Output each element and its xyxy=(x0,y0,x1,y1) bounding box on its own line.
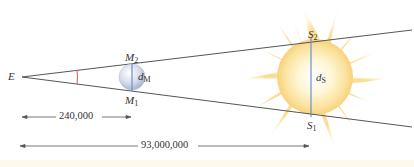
sun-top-label: S2 xyxy=(308,29,318,42)
moon-bottom-label-sub: 1 xyxy=(134,99,138,108)
diagram-canvas xyxy=(0,0,414,167)
sun-diameter-label-sub: S xyxy=(322,76,326,85)
moon-diameter-label-sub: M xyxy=(144,75,151,84)
sun-diameter-label: dS xyxy=(316,72,326,85)
sun-bottom-label-sub: 1 xyxy=(313,124,317,133)
moon-top-label-base: M xyxy=(125,51,134,63)
moon-diameter-label: dM xyxy=(138,71,151,84)
eclipse-geometry-diagram: E M2 M1 dM S2 S1 dS 240,000 93,000,000 xyxy=(0,0,414,167)
sun-bottom-label: S1 xyxy=(307,120,317,133)
sun-icon xyxy=(277,39,353,115)
earth-label: E xyxy=(8,71,15,82)
moon-top-label-sub: 2 xyxy=(134,56,138,65)
sun-top-label-sub: 2 xyxy=(314,33,318,42)
bottom-strip xyxy=(0,160,414,167)
moon-top-label: M2 xyxy=(125,52,138,65)
moon-bottom-label: M1 xyxy=(125,95,138,108)
earth-sun-distance-label: 93,000,000 xyxy=(139,140,190,151)
moon-bottom-label-base: M xyxy=(125,94,134,106)
earth-moon-distance-label: 240,000 xyxy=(57,111,95,122)
upper-sight-line xyxy=(22,30,412,77)
